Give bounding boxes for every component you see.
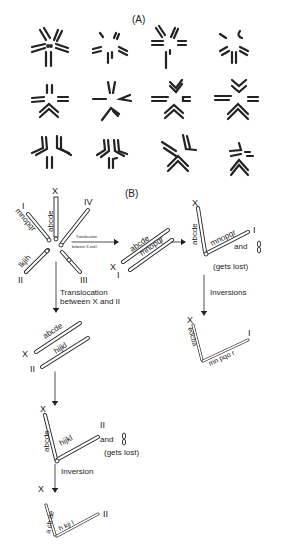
right-product: X I abcde mnopqr and (gets lost) bbox=[190, 198, 261, 271]
karyotype-3 bbox=[152, 26, 186, 68]
diagram-canvas: (A) bbox=[0, 0, 281, 555]
svg-text:II: II bbox=[100, 420, 105, 430]
arrow-inversion: Inversion bbox=[55, 464, 93, 492]
karyotype-4 bbox=[220, 31, 248, 63]
svg-text:X: X bbox=[187, 315, 193, 325]
arrow-translocation-x-i: Translocation between X and I bbox=[72, 235, 118, 249]
svg-text:and: and bbox=[100, 435, 113, 444]
left-intermediate: X II abcde hijkl bbox=[22, 321, 88, 374]
karyotype-1 bbox=[32, 28, 68, 66]
svg-text:I: I bbox=[253, 225, 256, 235]
svg-text:IV: IV bbox=[84, 197, 93, 207]
svg-text:Inversion: Inversion bbox=[61, 467, 93, 476]
svg-text:X: X bbox=[192, 198, 198, 208]
svg-text:abcde: abcde bbox=[42, 430, 51, 452]
svg-text:X: X bbox=[52, 186, 58, 196]
svg-text:and: and bbox=[234, 242, 247, 251]
left-final: X II a cb de h kji l bbox=[38, 484, 108, 536]
svg-text:II: II bbox=[18, 275, 23, 285]
svg-text:X: X bbox=[38, 484, 44, 494]
svg-text:III: III bbox=[80, 275, 88, 285]
svg-text:I: I bbox=[248, 328, 251, 338]
karyotype-grid bbox=[32, 26, 258, 175]
panel-a-label: (A) bbox=[132, 14, 145, 25]
svg-text:II: II bbox=[30, 364, 35, 374]
svg-text:Inversions: Inversions bbox=[210, 288, 246, 297]
karyotype-9 bbox=[32, 136, 71, 168]
left-product: X II abcde hijkl and (gets lost) bbox=[40, 404, 139, 463]
karyotype-12 bbox=[230, 143, 253, 175]
arrow-inversions: Inversions bbox=[204, 275, 246, 315]
right-intermediate: X I abcde mnopqr bbox=[110, 230, 185, 280]
right-final: X I edcba mn pqo r bbox=[187, 315, 251, 368]
svg-text:Translocation: Translocation bbox=[60, 288, 108, 297]
svg-text:edcba: edcba bbox=[187, 326, 199, 346]
karyotype-5 bbox=[32, 85, 68, 117]
svg-text:(gets lost): (gets lost) bbox=[213, 262, 248, 271]
svg-text:X: X bbox=[40, 404, 46, 414]
karyotype-2 bbox=[93, 33, 127, 63]
karyotype-6 bbox=[93, 82, 131, 120]
karyotype-10 bbox=[97, 140, 127, 168]
svg-text:X: X bbox=[22, 349, 28, 359]
svg-text:(gets lost): (gets lost) bbox=[104, 448, 139, 457]
karyotype-8 bbox=[215, 80, 258, 119]
svg-text:hijkl: hijkl bbox=[58, 433, 75, 448]
svg-text:I: I bbox=[117, 270, 120, 280]
karyotype-11 bbox=[162, 135, 196, 171]
svg-text:abcde: abcde bbox=[190, 223, 199, 245]
svg-text:II: II bbox=[103, 509, 108, 519]
panel-b-label: (B) bbox=[125, 188, 138, 199]
svg-text:between X and I: between X and I bbox=[72, 245, 97, 249]
svg-text:X: X bbox=[110, 262, 116, 272]
svg-text:abcde: abcde bbox=[46, 210, 55, 232]
svg-text:between X and II: between X and II bbox=[60, 297, 120, 306]
svg-text:Translocation: Translocation bbox=[76, 235, 97, 239]
karyotype-7 bbox=[152, 80, 190, 118]
